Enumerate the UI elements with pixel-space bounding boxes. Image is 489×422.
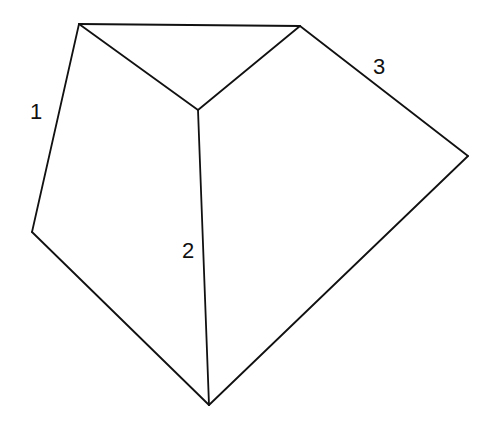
edge-label-2: 2 xyxy=(182,240,194,262)
edge-A-C xyxy=(79,24,198,110)
diagram-canvas: 1 2 3 xyxy=(0,0,489,422)
edge-A-B xyxy=(79,24,300,26)
edge-B-C xyxy=(198,26,300,110)
edge-label-3: 3 xyxy=(373,56,385,78)
edge-B-D xyxy=(300,26,468,156)
edge-label-1: 1 xyxy=(30,101,42,123)
edges-layer xyxy=(0,0,489,422)
edge-A-E xyxy=(32,24,79,232)
edge-D-F xyxy=(209,156,468,405)
edge-C-F xyxy=(198,110,209,405)
